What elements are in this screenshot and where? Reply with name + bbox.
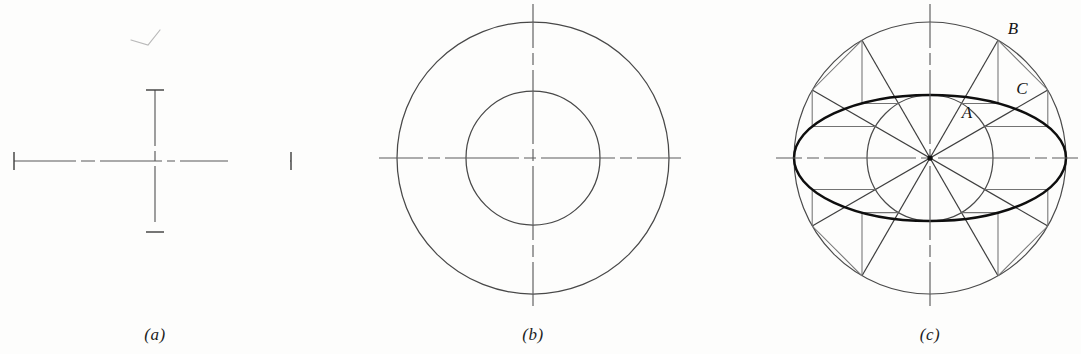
pencil-check-mark-artifact [131, 30, 160, 45]
figure-drawing-canvas [0, 0, 1081, 354]
panel-c-chord-lower-left [812, 226, 862, 276]
panel-c-chord-lower-right [998, 226, 1048, 276]
panel-b-group [379, 4, 687, 312]
panel-c-chord-upper-left [812, 40, 862, 90]
panel-caption-b: (b) [522, 325, 543, 345]
panel-c-point-label-A: A [962, 103, 972, 123]
panel-a-group [14, 30, 291, 232]
panel-caption-c: (c) [920, 325, 940, 345]
panel-c-group [776, 4, 1081, 312]
panel-caption-a: (a) [144, 325, 165, 345]
panel-c-center-point [927, 155, 932, 160]
panel-c-point-label-C: C [1016, 79, 1027, 99]
panel-c-point-label-B: B [1008, 19, 1018, 39]
figure-root: A B C (a) (b) (c) [0, 0, 1081, 354]
